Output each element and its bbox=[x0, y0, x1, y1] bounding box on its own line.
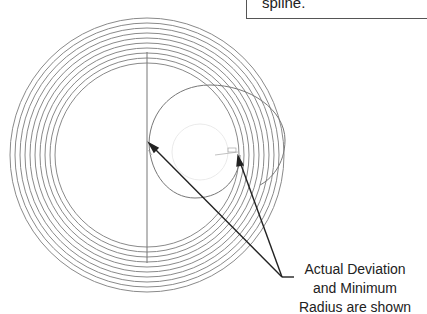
dimension-marks bbox=[148, 148, 238, 155]
callout-text: spline. bbox=[262, 0, 305, 11]
annotation-label: Actual Deviation and Minimum Radius are … bbox=[296, 260, 414, 314]
annotation-line-2: and Minimum bbox=[296, 279, 414, 298]
spline-curve bbox=[149, 85, 285, 198]
annotation-line-1: Actual Deviation bbox=[296, 260, 414, 279]
annotation-line-3: Radius are shown bbox=[296, 298, 414, 314]
reference-circle bbox=[172, 124, 228, 180]
